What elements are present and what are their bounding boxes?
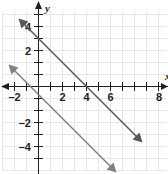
y-tick-label: 2 bbox=[25, 45, 31, 57]
coordinate-plane-chart: –2 2 4 6 8 4 2 –2 –4 y x bbox=[0, 0, 168, 174]
y-tick-label: –2 bbox=[19, 117, 31, 129]
x-axis-label: x bbox=[164, 70, 168, 82]
chart-canvas: –2 2 4 6 8 4 2 –2 –4 y x bbox=[0, 0, 168, 174]
x-tick-label: 4 bbox=[83, 91, 90, 103]
y-tick-label: –4 bbox=[19, 141, 32, 153]
x-tick-label: 2 bbox=[59, 91, 65, 103]
x-tick-label: –2 bbox=[8, 91, 20, 103]
x-tick-label: 6 bbox=[107, 91, 113, 103]
y-axis-label: y bbox=[43, 2, 50, 14]
x-tick-label: 8 bbox=[156, 91, 162, 103]
